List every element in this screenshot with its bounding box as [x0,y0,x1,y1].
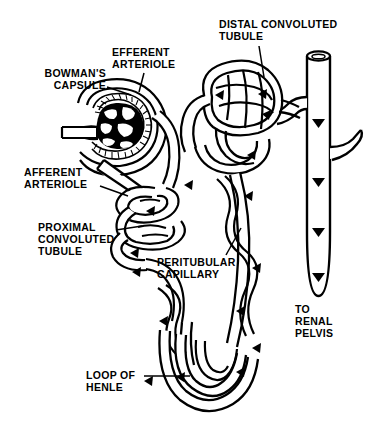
label-efferent-arteriole: EFFERENT ARTERIOLE [112,46,202,70]
label-peritubular-capillary: PERITUBULAR CAPILLARY [157,256,249,280]
label-to-renal-pelvis: TO RENAL PELVIS [295,303,365,340]
nephron-diagram: BOWMAN'S CAPSULE EFFERENT ARTERIOLE DIST… [0,0,369,421]
collecting-duct-tube [276,51,362,296]
label-distal-convoluted-tubule: DISTAL CONVOLUTED TUBULE [219,18,364,42]
proximal-convoluted-tubule-coil [111,187,185,322]
label-loop-of-henle: LOOP OF HENLE [86,369,152,393]
loop-of-henle-hairpin [144,330,258,411]
label-bowmans-capsule: BOWMAN'S CAPSULE [20,67,106,91]
label-proximal-convoluted-tubule: PROXIMAL CONVOLUTED TUBULE [38,221,118,258]
label-afferent-arteriole: AFFERENT ARTERIOLE [24,166,114,190]
